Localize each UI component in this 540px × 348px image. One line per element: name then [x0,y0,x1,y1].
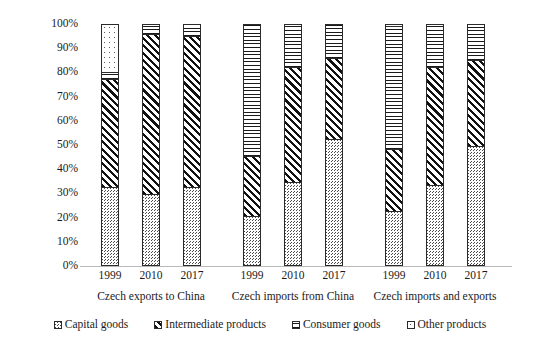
bar-segment-intermediate-products [102,80,118,188]
bar-segment-intermediate-products [326,59,342,141]
bar-segment-consumer-goods [386,27,402,149]
bar-1999-6 [385,24,403,266]
bar-segment-other-products [386,25,402,27]
x-year-label: 1999 [241,270,264,282]
bar-segment-intermediate-products [427,68,443,186]
bar-segment-capital-goods [143,195,159,265]
bar-segment-intermediate-products [386,150,402,212]
bar-segment-capital-goods [184,188,200,265]
legend-item-capital[interactable]: Capital goods [54,319,129,331]
legend-swatch-intermediate-icon [154,321,162,329]
legend-label: Consumer goods [303,319,381,331]
legend-label: Intermediate products [165,319,266,331]
bar-2017-8 [467,24,485,266]
bar-segment-consumer-goods [285,25,301,68]
bar-segment-consumer-goods [326,25,342,59]
y-tick-label-20: 20% [57,212,78,224]
y-tick-label-30: 30% [57,188,78,200]
stacked-bar-chart: 0%10%20%30%40%50%60%70%80%90%100% 199920… [0,0,540,348]
x-year-label: 2017 [181,270,204,282]
x-axis-baseline [80,266,512,267]
legend-item-consumer[interactable]: Consumer goods [292,319,381,331]
y-axis-tick-labels: 0%10%20%30%40%50%60%70%80%90%100% [22,24,78,266]
bar-segment-capital-goods [102,188,118,265]
group-label-2: Czech imports and exports [374,291,497,303]
y-tick-label-90: 90% [57,42,78,54]
bar-segment-intermediate-products [285,68,301,183]
bar-segment-capital-goods [427,186,443,265]
group-label-0: Czech exports to China [97,291,205,303]
y-tick-label-80: 80% [57,67,78,79]
bar-segment-consumer-goods [102,73,118,80]
bar-1999-0 [101,24,119,266]
x-axis-year-labels: 199920102017199920102017199920102017 [84,270,510,286]
x-year-label: 1999 [99,270,122,282]
plot-area [84,24,510,266]
x-year-label: 2010 [424,270,447,282]
legend-swatch-consumer-icon [292,321,300,329]
x-year-label: 2010 [282,270,305,282]
bar-segment-consumer-goods [184,25,200,37]
x-year-label: 2017 [323,270,346,282]
bar-2017-5 [325,24,343,266]
x-axis-group-labels: Czech exports to ChinaCzech imports from… [0,291,540,307]
bar-segment-consumer-goods [427,25,443,68]
y-tick-label-40: 40% [57,163,78,175]
bar-1999-3 [243,24,261,266]
group-label-1: Czech imports from China [232,291,354,303]
bar-2010-4 [284,24,302,266]
bar-segment-intermediate-products [184,37,200,188]
bar-segment-consumer-goods [143,25,159,35]
y-tick-label-60: 60% [57,115,78,127]
legend-item-other[interactable]: Other products [407,319,487,331]
bar-segment-intermediate-products [244,157,260,217]
bar-segment-intermediate-products [143,35,159,196]
y-tick-label-50: 50% [57,139,78,151]
legend-swatch-capital-icon [54,321,62,329]
legend-label: Capital goods [65,319,129,331]
legend-swatch-other-icon [407,321,415,329]
bar-2010-1 [142,24,160,266]
bar-2017-2 [183,24,201,266]
y-tick-label-70: 70% [57,91,78,103]
bar-segment-consumer-goods [244,25,260,157]
legend-item-intermediate[interactable]: Intermediate products [154,319,266,331]
y-tick-label-0: 0% [63,260,78,272]
bar-segment-capital-goods [468,147,484,265]
bar-segment-capital-goods [285,183,301,265]
x-year-label: 2017 [465,270,488,282]
y-tick-label-10: 10% [57,236,78,248]
bar-segment-consumer-goods [468,25,484,61]
chart-legend: Capital goodsIntermediate productsConsum… [0,316,540,334]
x-year-label: 2010 [140,270,163,282]
bar-segment-capital-goods [326,140,342,265]
y-tick-label-100: 100% [51,18,78,30]
bar-2010-7 [426,24,444,266]
legend-label: Other products [418,319,487,331]
bar-segment-capital-goods [386,212,402,265]
x-year-label: 1999 [383,270,406,282]
bar-segment-other-products [102,25,118,73]
bar-segment-intermediate-products [468,61,484,147]
bar-segment-capital-goods [244,217,260,265]
